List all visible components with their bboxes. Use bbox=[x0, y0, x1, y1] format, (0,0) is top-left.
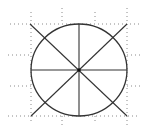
center-point bbox=[77, 68, 81, 72]
circle-sector-diagram bbox=[0, 0, 145, 135]
diagram-canvas bbox=[0, 0, 145, 135]
